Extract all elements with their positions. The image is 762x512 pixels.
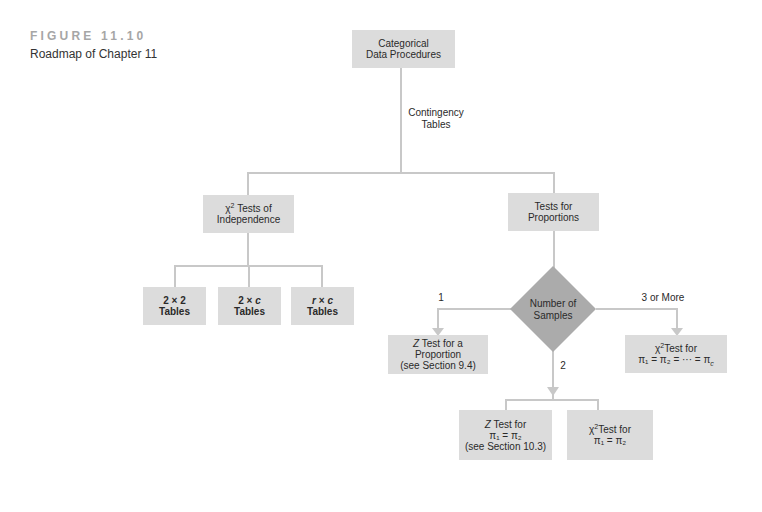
- section-reference: (see Section 9.4): [400, 360, 476, 371]
- node-text: Categorical: [378, 38, 429, 50]
- node-text: Proportions: [528, 212, 579, 224]
- node-text: Test for: [598, 424, 631, 435]
- section-reference: (see Section 10.3): [465, 441, 546, 452]
- variable-c: c: [327, 295, 333, 306]
- node-text: Test for a: [419, 338, 463, 349]
- node-text: r × c: [312, 295, 333, 307]
- variable-c: c: [255, 295, 261, 306]
- hypothesis-text: π₁ = π₂ = ··· = πc: [638, 354, 714, 366]
- edge-label-text: Tables: [403, 119, 469, 131]
- node-z-test-two-proportions: Z Test for π₁ = π₂ (see Section 10.3): [459, 410, 552, 460]
- branch-label-1: 1: [436, 292, 446, 304]
- hypothesis-text: π₁ = π₂: [489, 430, 521, 441]
- node-2xc-tables: 2 × c Tables: [218, 287, 281, 325]
- node-text: Proportion: [415, 349, 461, 360]
- node-text: Samples: [513, 310, 593, 322]
- node-categorical-data-procedures: Categorical Data Procedures: [352, 30, 455, 68]
- node-text: 2 × 2: [163, 295, 186, 307]
- node-text: Tables: [307, 306, 338, 318]
- node-text: ×: [316, 295, 327, 306]
- node-chi-square-independence: χ2 Tests of Independence: [203, 195, 294, 233]
- node-text: χ2Test for: [655, 343, 697, 355]
- node-text: Tables: [159, 306, 190, 318]
- node-rxc-tables: r × c Tables: [291, 287, 354, 325]
- node-text: χ2 Tests of: [225, 203, 271, 215]
- node-tests-for-proportions: Tests for Proportions: [508, 193, 599, 231]
- node-chi-square-many-proportions: χ2Test for π₁ = π₂ = ··· = πc: [625, 335, 727, 373]
- node-text: π₁ = π₂ = ··· = π: [638, 354, 710, 365]
- subscript: c: [710, 360, 714, 367]
- node-text: Z Test for a: [413, 338, 463, 349]
- arrow-head-branch-2: [547, 387, 559, 396]
- branch-label-3-or-more: 3 or More: [628, 292, 698, 304]
- node-text: Test for: [491, 419, 526, 430]
- node-text: 2 ×: [238, 295, 255, 306]
- edge-label-text: Contingency: [403, 107, 469, 119]
- edge-label-contingency-tables: Contingency Tables: [403, 107, 469, 130]
- node-text: Number of: [513, 298, 593, 310]
- node-text: Z Test for: [485, 419, 527, 430]
- node-text: Tests for: [535, 201, 573, 213]
- node-text: Data Procedures: [366, 49, 441, 61]
- node-z-test-one-proportion: Z Test for a Proportion (see Section 9.4…: [388, 335, 488, 374]
- node-2x2-tables: 2 × 2 Tables: [143, 287, 206, 325]
- decision-number-of-samples: Number of Samples: [513, 298, 593, 321]
- node-text: 2 × c: [238, 295, 261, 307]
- node-text: Tables: [234, 306, 265, 318]
- node-text: Independence: [217, 214, 280, 226]
- hypothesis-text: π₁ = π₂: [594, 435, 626, 447]
- node-text: Test for: [664, 343, 697, 354]
- branch-label-2: 2: [558, 360, 568, 372]
- node-chi-square-two-proportions: χ2Test for π₁ = π₂: [567, 410, 653, 460]
- node-text: Tests of: [234, 203, 271, 214]
- node-text: χ2Test for: [589, 424, 631, 436]
